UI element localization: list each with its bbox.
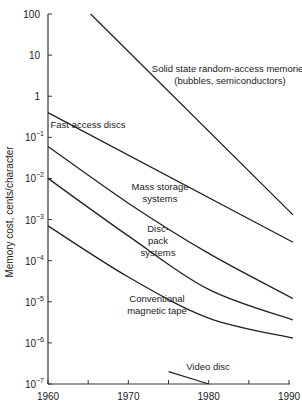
series-line [48, 113, 293, 243]
y-tick-label: 10−2 [25, 171, 44, 184]
x-tick-label: 1980 [198, 391, 221, 402]
series-label: systems [141, 247, 176, 258]
series-label: Conventional [129, 293, 184, 304]
series-label: Solid state random-access memories [152, 63, 302, 74]
x-tick-label: 1990 [278, 391, 301, 402]
y-tick-label: 10−5 [25, 295, 44, 308]
y-tick-label: 10−6 [25, 336, 44, 349]
series-line [91, 14, 293, 215]
y-axis-label: Memory cost, cents/character [4, 146, 15, 278]
memory-cost-chart: 196019701980199010010110−110−210−310−410… [0, 0, 302, 408]
x-tick-label: 1960 [37, 391, 60, 402]
y-tick-label: 1 [34, 91, 40, 102]
y-tick-label: 10−1 [25, 130, 44, 143]
y-tick-label: 10−4 [25, 254, 44, 267]
series-labels: Solid state random-access memories(bubbl… [51, 63, 302, 372]
chart-canvas: 196019701980199010010110−110−210−310−410… [0, 0, 302, 408]
series-label: (bubbles, semiconductors) [174, 75, 285, 86]
series-label: systems [143, 193, 178, 204]
series-label: Fast access discs [51, 119, 126, 130]
y-tick-label: 10−7 [25, 377, 44, 390]
y-tick-label: 10 [29, 50, 41, 61]
series-label: Mass storage [131, 181, 188, 192]
y-tick-label: 10−3 [25, 213, 44, 226]
x-tick-label: 1970 [117, 391, 140, 402]
series-label: pack [148, 235, 168, 246]
series-line [169, 372, 209, 384]
series-line [48, 226, 293, 338]
series-label: Disc- [147, 223, 169, 234]
series-label: Video disc [186, 361, 230, 372]
y-tick-label: 100 [23, 9, 40, 20]
series-label: magnetic tape [127, 305, 187, 316]
